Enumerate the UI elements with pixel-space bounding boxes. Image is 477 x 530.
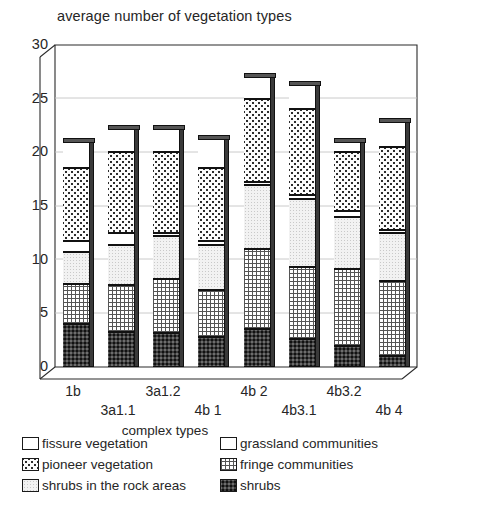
y-tick-label: 0 [18,358,48,374]
chart-legend: fissure vegetationgrassland communitiesp… [22,436,462,499]
bar-segment-shrubsrock[interactable] [334,217,360,270]
y-tick-label: 20 [18,143,48,159]
stacked-bar[interactable] [198,139,224,367]
bar-segment-shrubs[interactable] [334,346,360,367]
bar-segment-fringe[interactable] [334,269,360,345]
bar-segment-fringe[interactable] [244,249,270,330]
bar-segment-shrubsrock[interactable] [198,245,224,290]
bar-side-face [270,77,275,367]
bar-segment-fissure[interactable] [63,142,89,169]
bar-segment-grassland[interactable] [379,230,405,233]
bar-segment-shrubs[interactable] [289,339,315,367]
stacked-bar[interactable] [63,142,89,367]
stacked-bar[interactable] [244,77,270,367]
bar-segment-pioneer[interactable] [153,152,179,233]
bar-segment-shrubs[interactable] [244,329,270,367]
legend-item-fringe[interactable]: fringe communities [220,457,353,472]
legend-swatch-shrubsrock-icon [22,479,39,492]
bar-group[interactable] [108,45,140,367]
stacked-bar[interactable] [153,129,179,367]
legend-item-pioneer[interactable]: pioneer vegetation [22,457,220,472]
bar-group[interactable] [153,45,185,367]
bar-segment-shrubsrock[interactable] [63,252,89,284]
bars-container [55,45,417,367]
bar-segment-grassland[interactable] [153,233,179,236]
legend-label: shrubs in the rock areas [42,478,186,493]
bar-segment-shrubs[interactable] [198,337,224,367]
legend-swatch-pioneer-icon [22,458,39,471]
bar-segment-fissure[interactable] [289,85,315,110]
legend-label: fringe communities [240,457,353,472]
bar-segment-grassland[interactable] [289,195,315,198]
bar-segment-fringe[interactable] [63,284,89,324]
bar-segment-fringe[interactable] [153,279,179,333]
bar-segment-shrubs[interactable] [379,356,405,367]
bar-side-face [89,142,94,367]
y-tick-label: 10 [18,251,48,267]
y-tick-label: 30 [18,36,48,52]
bar-segment-grassland[interactable] [198,241,224,244]
x-tick-label: 4b 2 [228,383,280,399]
y-tick-label: 5 [18,304,48,320]
bar-segment-shrubsrock[interactable] [289,199,315,268]
bar-segment-fringe[interactable] [379,281,405,356]
bar-group[interactable] [244,45,276,367]
bar-side-face [224,139,229,367]
bar-segment-fringe[interactable] [198,290,224,337]
bar-segment-pioneer[interactable] [108,152,134,233]
bar-segment-shrubs[interactable] [63,324,89,367]
bar-group[interactable] [198,45,230,367]
y-tick-label: 25 [18,90,48,106]
bar-side-face [405,122,410,367]
bar-segment-fissure[interactable] [379,122,405,147]
stacked-bar[interactable] [334,142,360,367]
legend-item-shrubs[interactable]: shrubs [220,478,281,493]
bar-segment-grassland[interactable] [63,241,89,252]
bar-segment-shrubsrock[interactable] [244,185,270,249]
x-tick-label: 3a1.2 [137,383,189,399]
legend-item-fissure[interactable]: fissure vegetation [22,436,220,451]
legend-row: fissure vegetationgrassland communities [22,436,462,451]
bar-segment-fringe[interactable] [108,285,134,331]
legend-item-grassland[interactable]: grassland communities [220,436,378,451]
bar-segment-fissure[interactable] [244,77,270,98]
bar-segment-grassland[interactable] [108,233,134,245]
bar-side-face [179,129,184,367]
legend-label: pioneer vegetation [42,457,153,472]
legend-swatch-grassland-icon [220,437,237,450]
bar-segment-pioneer[interactable] [244,99,270,183]
bar-segment-pioneer[interactable] [379,147,405,230]
x-tick-label: 1b [47,383,99,399]
bar-group[interactable] [289,45,321,367]
bar-segment-shrubsrock[interactable] [108,245,134,286]
bar-group[interactable] [63,45,95,367]
bar-segment-fringe[interactable] [289,267,315,339]
bar-group[interactable] [334,45,366,367]
y-tick-label: 15 [18,197,48,213]
bar-segment-pioneer[interactable] [334,152,360,211]
bar-segment-fissure[interactable] [198,139,224,168]
bar-segment-grassland[interactable] [334,211,360,216]
bar-group[interactable] [379,45,411,367]
stacked-bar[interactable] [379,122,405,367]
bar-segment-shrubsrock[interactable] [153,236,179,279]
bar-segment-fissure[interactable] [108,129,134,153]
stacked-bar[interactable] [289,85,315,367]
vegetation-types-stacked-bar-chart: average number of vegetation types 05101… [0,0,477,530]
legend-row: pioneer vegetationfringe communities [22,457,462,472]
figure-caption [18,516,458,528]
bar-segment-shrubsrock[interactable] [379,233,405,281]
x-tick-label: 3a1.1 [92,402,144,418]
bar-segment-fissure[interactable] [334,142,360,153]
bar-segment-fissure[interactable] [153,129,179,153]
bar-segment-grassland[interactable] [244,182,270,184]
bar-segment-shrubs[interactable] [153,333,179,367]
bar-segment-pioneer[interactable] [198,168,224,241]
legend-label: shrubs [240,478,281,493]
bar-segment-shrubs[interactable] [108,332,134,367]
legend-item-shrubsrock[interactable]: shrubs in the rock areas [22,478,220,493]
legend-swatch-fissure-icon [22,437,39,450]
bar-segment-pioneer[interactable] [289,109,315,195]
stacked-bar[interactable] [108,129,134,367]
bar-segment-pioneer[interactable] [63,168,89,241]
